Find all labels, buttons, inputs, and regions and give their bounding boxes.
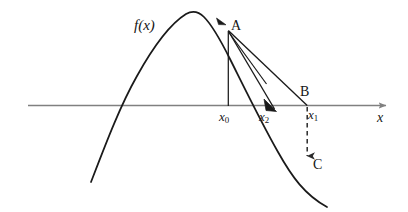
axis-tick-label-x2: x2 [259,110,269,125]
function-curve-fx [91,12,327,207]
figure-canvas [0,0,408,212]
curve-direction-arrow-icon [217,18,227,25]
point-label-a: A [231,19,241,33]
newton-method-figure: f(x) A B C x0 x2 x1 x [0,0,408,212]
point-label-b: B [300,85,309,99]
tangent-line-a-to-b [228,31,307,106]
function-label-fx: f(x) [134,18,155,33]
x-axis-label: x [377,111,383,125]
point-label-c: C [313,158,322,172]
x0-subscript: 0 [225,115,229,125]
axis-tick-label-x1: x1 [308,108,318,123]
x2-subscript: 2 [265,115,269,125]
x1-subscript: 1 [314,113,318,123]
axis-tick-label-x0: x0 [219,110,229,125]
short-ray-from-a [229,33,267,85]
